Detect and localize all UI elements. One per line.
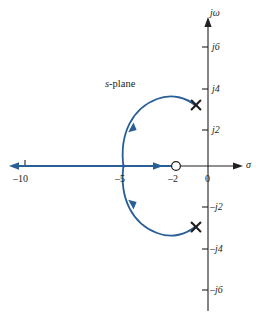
- real-tick-label-zero: 0: [205, 174, 210, 184]
- imaginary-axis-ticks: [202, 47, 208, 290]
- imaginary-axis: [202, 17, 212, 311]
- locus-real-axis-branch: [9, 162, 124, 170]
- open-loop-pole-upper-marker: [192, 101, 201, 110]
- imaginary-axis-label: jω: [210, 8, 220, 18]
- locus-upper-branch: [123, 96, 196, 167]
- locus-left-arrowhead: [9, 162, 19, 170]
- locus-segment-to-zero: [124, 162, 176, 170]
- imaginary-tick-label-neg-j6: –j6: [210, 285, 223, 295]
- imaginary-tick-label-j2: j2: [212, 125, 220, 135]
- real-tick-label-neg-10: –10: [13, 174, 28, 184]
- open-loop-pole-lower-marker: [192, 223, 201, 232]
- open-loop-zero-marker: [172, 162, 181, 171]
- s-plane-annotation: s-plane: [105, 79, 135, 90]
- real-axis-arrowhead: [233, 162, 243, 169]
- imaginary-tick-label-neg-j2: –j2: [210, 202, 223, 212]
- real-axis-label: σ: [246, 160, 251, 170]
- imaginary-tick-label-neg-j4: –j4: [210, 244, 223, 254]
- root-locus-canvas: [0, 0, 261, 317]
- imaginary-tick-label-j4: j4: [212, 84, 220, 94]
- root-locus-figure: jω σ j6 j4 j2 –j2 –j4 –j6 –10 –5 –2 0 s-…: [0, 0, 261, 317]
- locus-lower-branch: [123, 165, 196, 236]
- real-tick-label-neg-5: –5: [115, 174, 125, 184]
- locus-right-arrowhead: [153, 162, 163, 170]
- imaginary-axis-arrowhead: [204, 17, 211, 27]
- imaginary-tick-label-j6: j6: [212, 42, 220, 52]
- real-tick-label-neg-2: –2: [168, 174, 178, 184]
